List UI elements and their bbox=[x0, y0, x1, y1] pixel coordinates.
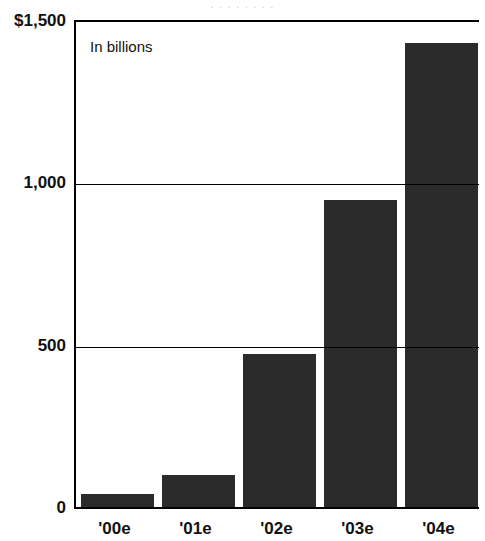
bar bbox=[243, 354, 316, 507]
gridline bbox=[76, 347, 479, 348]
bars-layer bbox=[76, 22, 479, 507]
bar bbox=[405, 43, 478, 507]
x-axis: '00e'01e'02e'03e'04e bbox=[74, 512, 485, 541]
y-tick-label: 0 bbox=[57, 499, 66, 516]
y-tick-label: 500 bbox=[38, 337, 66, 354]
y-tick-label: 1,000 bbox=[23, 174, 66, 191]
y-axis: $1,5001,0005000 bbox=[0, 0, 72, 541]
x-tick-label: '04e bbox=[398, 520, 479, 537]
bar bbox=[162, 475, 235, 507]
x-tick-label: '00e bbox=[74, 520, 155, 537]
gridline bbox=[76, 184, 479, 185]
y-tick-label: $1,500 bbox=[14, 12, 66, 29]
x-tick-label: '01e bbox=[155, 520, 236, 537]
x-tick-label: '03e bbox=[317, 520, 398, 537]
bar-chart-figure: . . . . . . . . $1,5001,0005000 In billi… bbox=[0, 0, 485, 541]
clipped-header-bleed: . . . . . . . . bbox=[0, 0, 485, 8]
bar bbox=[81, 494, 154, 507]
x-tick-label: '02e bbox=[236, 520, 317, 537]
bar bbox=[324, 200, 397, 507]
plot-area: In billions bbox=[74, 20, 479, 509]
